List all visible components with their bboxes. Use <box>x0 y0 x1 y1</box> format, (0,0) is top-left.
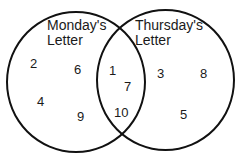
thursday-only-value: 5 <box>180 108 187 121</box>
thursdays-label-line2: Letter <box>135 33 203 48</box>
mondays-letter-label: Monday's Letter <box>47 18 106 48</box>
monday-only-value: 6 <box>74 63 81 76</box>
intersection-value: 10 <box>114 106 128 119</box>
intersection-value: 1 <box>109 64 116 77</box>
thursday-only-value: 8 <box>200 67 207 80</box>
thursdays-label-line1: Thursday's <box>135 18 203 33</box>
monday-only-value: 9 <box>77 110 84 123</box>
thursday-only-value: 3 <box>157 67 164 80</box>
venn-diagram: Monday's Letter Thursday's Letter 2 6 4 … <box>0 0 240 160</box>
mondays-label-line2: Letter <box>47 33 106 48</box>
thursdays-letter-label: Thursday's Letter <box>135 18 203 48</box>
monday-only-value: 2 <box>30 57 37 70</box>
intersection-value: 7 <box>124 80 131 93</box>
monday-only-value: 4 <box>37 95 44 108</box>
mondays-label-line1: Monday's <box>47 18 106 33</box>
